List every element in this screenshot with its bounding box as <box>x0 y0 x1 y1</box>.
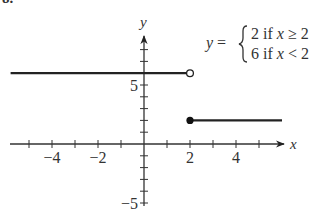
svg-text:6 if x < 2: 6 if x < 2 <box>251 45 309 62</box>
svg-text:2 if x ≥ 2: 2 if x ≥ 2 <box>251 25 309 42</box>
svg-text:y =: y = <box>204 34 226 52</box>
open-endpoint <box>187 70 194 77</box>
piecewise-equation: y = 2 if x ≥ 2 6 if x < 2 <box>204 25 309 62</box>
x-tick-label: 4 <box>232 149 240 166</box>
x-tick-label: −2 <box>89 149 106 166</box>
curly-brace <box>239 26 247 62</box>
y-tick-label: 5 <box>130 77 138 94</box>
closed-endpoint <box>186 117 193 124</box>
x-tick-label: −4 <box>43 149 60 166</box>
y-tick-label: −5 <box>121 195 138 212</box>
x-axis-label: x <box>289 136 297 152</box>
x-tick-label: 2 <box>186 149 194 166</box>
y-axis-label: y <box>138 14 147 30</box>
problem-number: 8. <box>2 0 14 6</box>
piecewise-graph: 8. −4−2245−5 x y y = 2 if x ≥ 2 6 if x <… <box>0 0 327 223</box>
